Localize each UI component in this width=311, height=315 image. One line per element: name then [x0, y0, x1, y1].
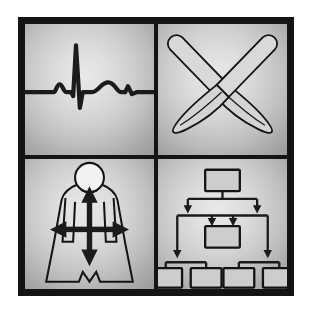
- figure-title: Four-quadrant clinical concept panel: [0, 21, 1, 22]
- patient-figure-panel: Patient figure with directional arrows: [25, 159, 154, 290]
- flowchart-node-center: [205, 226, 240, 247]
- organization-flowchart-icon: [158, 159, 287, 290]
- ecg-waveform-panel: ECG waveform: [25, 24, 154, 155]
- flowchart-node-leaf-4: [263, 268, 287, 287]
- outer-frame: ECG waveform Crossed surgical scalpels: [18, 17, 294, 296]
- image-canvas: Four-quadrant clinical concept panel ECG…: [0, 0, 311, 315]
- quadrant-grid: ECG waveform Crossed surgical scalpels: [21, 20, 291, 293]
- patient-figure-icon: [25, 159, 154, 290]
- crossed-scalpels-panel: Crossed surgical scalpels: [158, 24, 287, 155]
- vertical-double-arrow: [81, 186, 97, 266]
- flowchart-node-leaf-1: [158, 268, 182, 287]
- ecg-waveform-icon: [25, 24, 154, 155]
- crossed-scalpels-icon: [158, 24, 287, 155]
- organization-flowchart-panel: Hierarchical flowchart: [158, 159, 287, 290]
- flowchart-node-root: [205, 169, 240, 190]
- flowchart-node-leaf-3: [223, 268, 254, 287]
- flowchart-node-leaf-2: [191, 268, 222, 287]
